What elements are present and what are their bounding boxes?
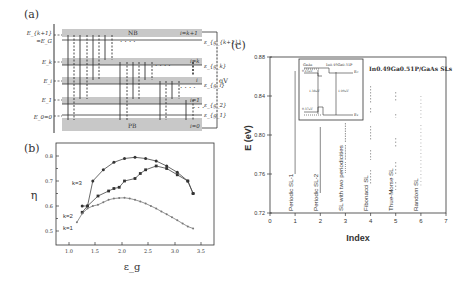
svg-text:i=k+1: i=k+1 <box>180 30 198 36</box>
figure-canvas: (a) <box>0 0 469 286</box>
svg-text:Random SL: Random SL <box>412 178 419 211</box>
series-k3-line <box>82 157 193 206</box>
plot-c-yticks <box>267 57 272 213</box>
svg-text:E_i: E_i <box>42 78 52 85</box>
svg-text:3: 3 <box>344 218 348 224</box>
svg-text:In0.49Ga0.51P: In0.49Ga0.51P <box>326 63 353 67</box>
series-k1-line <box>77 198 193 229</box>
svg-text:0: 0 <box>268 218 272 224</box>
category-labels: Periodic SL-1 Periodic SL-2 SL with two … <box>287 145 419 211</box>
plot-c-xtick-labels: 0 1 2 3 4 5 6 7 <box>268 218 448 224</box>
svg-text:0.76: 0.76 <box>254 171 265 177</box>
svg-text:E_{k+1}: E_{k+1} <box>26 30 52 37</box>
svg-text:0.8: 0.8 <box>45 153 53 159</box>
svg-text:· · · ·: · · · · <box>155 62 171 70</box>
nb-label: NB <box>128 29 138 36</box>
svg-text:0.80: 0.80 <box>254 132 265 138</box>
svg-text:0.5: 0.5 <box>45 228 53 234</box>
plot-c-xlabel: Index <box>346 233 370 243</box>
svg-text:0.7: 0.7 <box>45 178 53 184</box>
svg-text:GaAs: GaAs <box>303 63 312 67</box>
svg-text:4: 4 <box>369 218 373 224</box>
svg-text:0.37eV: 0.37eV <box>302 107 313 111</box>
plot-b-xticks <box>69 242 201 245</box>
svg-text:Periodic SL-2: Periodic SL-2 <box>312 173 319 211</box>
svg-text:SL with two periodicities: SL with two periodicities <box>337 145 344 211</box>
panel-c: (c) 0.88 0.84 0.80 0.76 0.72 <box>231 39 453 243</box>
svg-text:=E_G: =E_G <box>36 38 52 45</box>
svg-text:ε_{g_k}: ε_{g_k} <box>204 63 226 70</box>
plot-c-ylabel: E (eV) <box>243 125 253 151</box>
svg-text:E_0=0: E_0=0 <box>33 114 53 121</box>
svg-text:2.0: 2.0 <box>118 248 126 254</box>
svg-text:· · · ·: · · · · <box>120 38 136 46</box>
plot-b-ytick-labels: 0.8 0.7 0.6 0.5 <box>45 153 53 234</box>
plot-c-xticks <box>270 213 446 216</box>
inset-band-diagram: GaAs In0.49Ga0.51P 0.15eV 1.38eV 1.90eV … <box>299 59 363 120</box>
svg-text:i=0: i=0 <box>190 123 200 129</box>
svg-text:6: 6 <box>419 218 423 224</box>
plot-b-xtick-labels: 1.0 1.5 2.0 2.5 3.0 3.5 <box>65 248 205 254</box>
svg-text:i=k: i=k <box>190 58 200 64</box>
svg-text:i=1: i=1 <box>190 97 200 103</box>
panel-b: (b) 0.8 0.7 0.6 0.5 1.0 <box>24 142 214 273</box>
band-i <box>62 77 202 84</box>
svg-text:7: 7 <box>444 218 448 224</box>
svg-text:0.84: 0.84 <box>254 93 265 99</box>
svg-text:2: 2 <box>319 218 323 224</box>
svg-text:ε_{g_2}: ε_{g_2} <box>204 102 226 109</box>
svg-text:· · ·: · · · <box>193 104 204 112</box>
svg-text:· · · ·: · · · · <box>180 84 196 92</box>
svg-text:Ec: Ec <box>354 70 359 74</box>
svg-text:k=1: k=1 <box>63 225 74 231</box>
svg-text:Ev: Ev <box>354 113 359 117</box>
panel-c-label: (c) <box>231 39 246 52</box>
svg-text:1.90eV: 1.90eV <box>338 89 349 93</box>
band-k <box>62 58 202 65</box>
svg-text:1: 1 <box>293 218 297 224</box>
svg-text:2.5: 2.5 <box>144 248 152 254</box>
svg-text:k=3: k=3 <box>72 180 83 186</box>
series-k3-markers <box>81 156 195 208</box>
svg-text:Periodic SL-1: Periodic SL-1 <box>287 173 294 211</box>
plot-c-ytick-labels: 0.88 0.84 0.80 0.76 0.72 <box>254 54 265 216</box>
qv-label: qV <box>219 77 228 85</box>
svg-text:0.6: 0.6 <box>45 203 53 209</box>
plot-b-ylabel: η <box>31 189 38 202</box>
svg-text:3.5: 3.5 <box>197 248 205 254</box>
svg-text:k=2: k=2 <box>63 213 74 219</box>
left-energy-labels: E_{k+1} =E_G E_k E_i E_1 E_0=0 <box>26 30 53 121</box>
svg-text:3.0: 3.0 <box>171 248 179 254</box>
panel-b-label: (b) <box>24 142 40 155</box>
svg-text:5: 5 <box>394 218 398 224</box>
svg-text:Fibonacci SL: Fibonacci SL <box>362 175 369 211</box>
svg-text:1.0: 1.0 <box>65 248 73 254</box>
pb-label: PB <box>128 122 137 129</box>
left-leaders <box>54 35 62 116</box>
svg-text:0.88: 0.88 <box>254 54 265 60</box>
plot-c-title: In0.49Ga0.51P/GaAs SLs <box>369 65 453 72</box>
series-k1-markers <box>76 197 194 230</box>
plot-b-yticks <box>56 156 59 231</box>
band-1 <box>62 97 202 104</box>
panel-a: (a) <box>24 8 241 133</box>
series-labels: k=3 k=2 k=1 <box>63 180 83 231</box>
svg-text:0.72: 0.72 <box>254 210 265 216</box>
svg-text:E_1: E_1 <box>41 97 52 104</box>
svg-text:i: i <box>196 77 198 83</box>
svg-text:0.15eV: 0.15eV <box>302 69 313 73</box>
panel-a-label: (a) <box>24 8 39 21</box>
svg-text:1.5: 1.5 <box>91 248 99 254</box>
svg-text:Thue-Morse SL: Thue-Morse SL <box>387 168 394 211</box>
svg-text:E_k: E_k <box>41 59 53 66</box>
svg-text:1.38eV: 1.38eV <box>309 89 320 93</box>
svg-text:ε_{g_1}: ε_{g_1} <box>204 112 226 119</box>
plot-b-xlabel: ε_g <box>124 261 141 273</box>
